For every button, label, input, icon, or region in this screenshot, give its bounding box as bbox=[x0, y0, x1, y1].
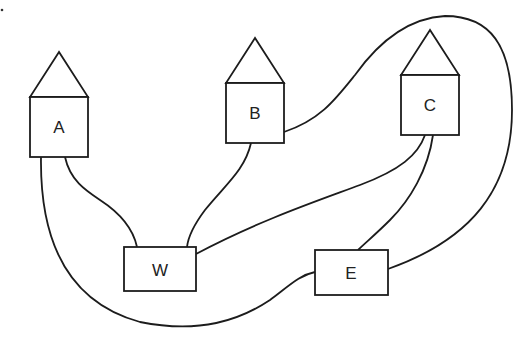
node-a[interactable]: A bbox=[30, 52, 88, 157]
node-c-label: C bbox=[424, 96, 436, 115]
node-b-label: B bbox=[249, 104, 260, 123]
node-e[interactable]: E bbox=[315, 250, 388, 295]
node-a-label: A bbox=[53, 118, 65, 137]
edge-b-e bbox=[284, 16, 512, 269]
stray-dot bbox=[1, 9, 4, 12]
roof-c bbox=[401, 30, 459, 75]
edge-c-e bbox=[358, 135, 433, 250]
roof-b bbox=[226, 38, 284, 83]
edge-a-w bbox=[65, 157, 137, 247]
network-diagram: A B C W E bbox=[0, 0, 525, 344]
node-b[interactable]: B bbox=[226, 38, 284, 143]
edge-a-e bbox=[41, 157, 315, 326]
node-c[interactable]: C bbox=[401, 30, 459, 135]
edge-c-w bbox=[196, 135, 425, 254]
node-e-label: E bbox=[345, 264, 356, 283]
node-w-label: W bbox=[152, 261, 168, 280]
node-w[interactable]: W bbox=[124, 247, 196, 291]
roof-a bbox=[30, 52, 88, 97]
